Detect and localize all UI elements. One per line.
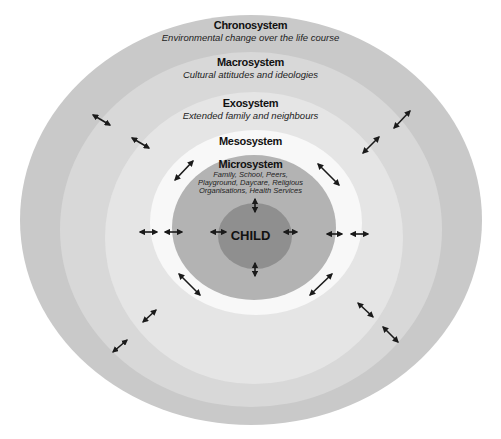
double-arrow-icon — [318, 164, 339, 185]
double-arrow-icon — [179, 274, 200, 295]
interaction-arrows — [0, 0, 501, 439]
double-arrow-icon — [310, 274, 332, 295]
double-arrow-icon — [113, 340, 127, 352]
double-arrow-icon — [132, 138, 149, 148]
double-arrow-icon — [383, 327, 398, 342]
double-arrow-icon — [363, 137, 379, 153]
double-arrow-icon — [93, 115, 110, 125]
double-arrow-icon — [394, 111, 410, 128]
double-arrow-icon — [143, 310, 156, 322]
double-arrow-icon — [175, 161, 193, 180]
double-arrow-icon — [358, 303, 373, 317]
